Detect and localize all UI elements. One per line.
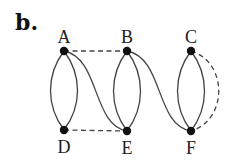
- node-f: [187, 127, 195, 135]
- node-label-c: C: [185, 27, 197, 47]
- edge-b-e-left: [114, 51, 128, 131]
- edges: [51, 51, 219, 131]
- node-a: [60, 47, 68, 55]
- edge-c-f-left: [178, 51, 192, 131]
- edge-a-d-right: [64, 51, 78, 130]
- graph-diagram: b. A B C D E F: [0, 0, 225, 161]
- edge-a-d-left: [51, 51, 65, 130]
- node-label-a: A: [58, 27, 71, 47]
- node-label-d: D: [58, 137, 71, 157]
- node-e: [123, 127, 131, 135]
- edge-b-f-curve: [127, 51, 191, 131]
- node-label-e: E: [122, 138, 133, 158]
- node-b: [123, 47, 131, 55]
- edge-c-f-right: [191, 51, 205, 131]
- node-c: [187, 47, 195, 55]
- panel-label: b.: [15, 9, 38, 35]
- node-label-b: B: [121, 27, 133, 47]
- node-d: [60, 126, 68, 134]
- node-label-f: F: [186, 138, 196, 158]
- edge-b-e-right: [127, 51, 141, 131]
- edge-a-e-curve: [64, 51, 127, 131]
- node-labels: A B C D E F: [58, 27, 198, 158]
- edge-d-e-dashed: [64, 130, 127, 131]
